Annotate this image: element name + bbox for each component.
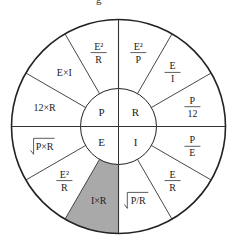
numerator: E — [170, 60, 176, 71]
segment-label-7: E²R — [56, 169, 72, 193]
denominator: R — [61, 182, 68, 193]
segment-label-5: P/R — [124, 192, 148, 208]
numerator: P — [190, 95, 196, 106]
segment-label-2: P12 — [184, 95, 200, 119]
core-label-e: E — [98, 136, 105, 148]
numerator: P — [190, 134, 196, 145]
segment-label-0: E²P — [130, 41, 146, 65]
sqrt-argument: P/R — [131, 195, 146, 206]
formula-text: I×R — [91, 195, 107, 206]
denominator: E — [189, 147, 195, 158]
denominator: P — [136, 54, 142, 65]
sqrt-argument: P×R — [36, 141, 54, 152]
spoke-line — [151, 73, 211, 108]
segment-label-11: E²R — [91, 41, 107, 65]
denominator: I — [171, 73, 174, 84]
segment-label-6: I×R — [91, 195, 107, 206]
segment-label-8: P×R — [31, 138, 55, 154]
numerator: E² — [134, 41, 143, 52]
segment-label-1: EI — [165, 60, 181, 84]
core-label-i: I — [134, 136, 138, 148]
core-label-p: P — [98, 106, 104, 118]
numerator: E — [170, 169, 176, 180]
segment-label-4: ER — [165, 169, 181, 193]
denominator: R — [95, 54, 102, 65]
spoke-line — [138, 159, 173, 219]
denominator: R — [169, 182, 176, 193]
denominator: 12 — [187, 108, 197, 119]
segment-label-10: E×I — [57, 67, 72, 78]
ohms-law-wheel: P R E I E²PEIP12PEERP/RI×RE²RP×R12×RE×IE… — [0, 0, 236, 247]
numerator: E² — [94, 41, 103, 52]
core-label-r: R — [132, 106, 140, 118]
spoke-line — [151, 146, 211, 181]
segment-label-3: PE — [184, 134, 200, 158]
formula-text: E×I — [57, 67, 72, 78]
formula-text: 12×R — [33, 102, 56, 113]
segment-label-9: 12×R — [33, 102, 56, 113]
numerator: E² — [60, 169, 69, 180]
